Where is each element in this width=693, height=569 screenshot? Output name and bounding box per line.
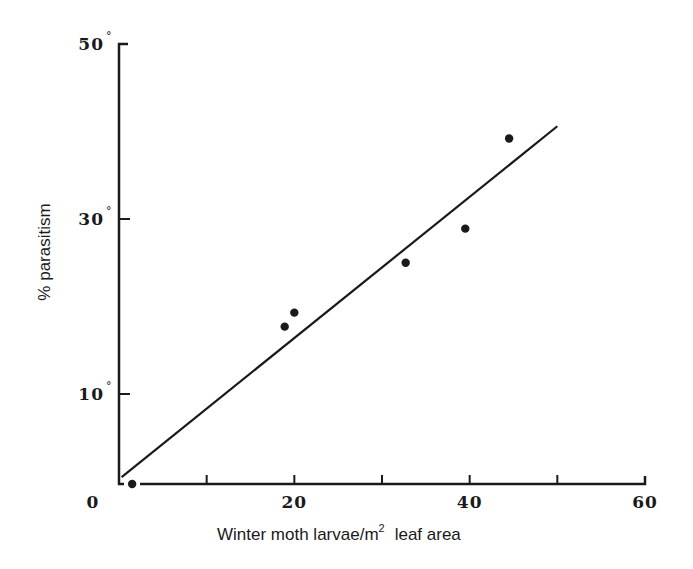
x-axis-line <box>140 476 645 484</box>
ticks <box>119 219 557 484</box>
x-axis-label: Winter moth larvae/m2leaf area <box>217 522 461 544</box>
scatter-chart: 020406010°30°50° Winter moth larvae/m2le… <box>0 0 693 569</box>
y-axis-label: % parasitism <box>35 203 54 300</box>
y-tick-label: 50 <box>78 34 104 54</box>
data-point <box>280 322 288 330</box>
data-point <box>290 308 298 316</box>
data-point <box>128 480 136 488</box>
x-axis-label-suffix: leaf area <box>395 525 462 544</box>
x-tick-label: 20 <box>281 492 307 512</box>
axes <box>119 44 645 484</box>
fit-line-group <box>122 126 558 477</box>
x-axis-label-main: Winter moth larvae/m <box>217 525 379 544</box>
degree-mark: ° <box>106 30 112 43</box>
x-axis-label-superscript: 2 <box>379 522 385 534</box>
y-axis-line <box>119 44 128 484</box>
data-point <box>505 134 513 142</box>
degree-mark: ° <box>106 205 112 218</box>
tick-labels: 020406010°30°50° <box>78 30 658 512</box>
y-tick-label: 30 <box>78 209 104 229</box>
regression-line <box>122 126 558 477</box>
x-tick-label: 0 <box>87 492 100 512</box>
data-points <box>128 134 513 488</box>
x-tick-label: 40 <box>457 492 483 512</box>
data-point <box>401 259 409 267</box>
x-tick-label: 60 <box>632 492 658 512</box>
data-point <box>461 224 469 232</box>
degree-mark: ° <box>106 380 112 393</box>
y-tick-label: 10 <box>78 384 104 404</box>
